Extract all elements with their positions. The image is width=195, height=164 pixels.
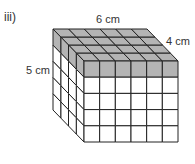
front-cube-face — [100, 61, 116, 77]
front-cube-face — [84, 126, 100, 142]
front-cube-face — [100, 77, 116, 93]
front-cube-face — [162, 93, 178, 109]
front-cube-face — [115, 110, 131, 126]
front-cube-face — [131, 110, 147, 126]
front-cube-face — [162, 77, 178, 93]
front-cube-face — [84, 93, 100, 109]
front-cube-face — [100, 110, 116, 126]
front-cube-face — [100, 93, 116, 109]
front-cube-face — [131, 61, 147, 77]
front-cube-face — [115, 93, 131, 109]
front-cube-face — [115, 126, 131, 142]
front-cube-face — [84, 77, 100, 93]
front-cube-face — [147, 61, 163, 77]
cuboid-diagram — [0, 0, 195, 164]
front-cube-face — [162, 61, 178, 77]
front-cube-face — [115, 77, 131, 93]
front-cube-face — [147, 93, 163, 109]
front-cube-face — [162, 126, 178, 142]
front-cube-face — [131, 93, 147, 109]
front-cube-face — [84, 110, 100, 126]
front-cube-face — [147, 110, 163, 126]
front-cube-face — [100, 126, 116, 142]
front-cube-face — [131, 77, 147, 93]
front-cube-face — [147, 126, 163, 142]
front-cube-face — [131, 126, 147, 142]
front-cube-face — [84, 61, 100, 77]
front-cube-face — [147, 77, 163, 93]
front-cube-face — [115, 61, 131, 77]
front-cube-face — [162, 110, 178, 126]
